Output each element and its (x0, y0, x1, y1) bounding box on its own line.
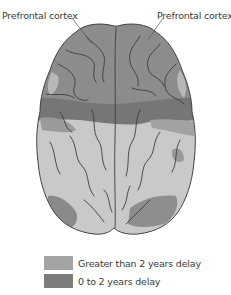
legend-item-greater-than-2-years: Greater than 2 years delay (44, 256, 201, 270)
legend-swatch-light (44, 256, 73, 270)
brain-diagram (0, 0, 231, 295)
legend-label: 0 to 2 years delay (78, 276, 160, 287)
legend-label: Greater than 2 years delay (78, 258, 201, 269)
legend-item-0-to-2-years: 0 to 2 years delay (44, 274, 160, 288)
legend-swatch-dark (44, 274, 73, 288)
brain-regions (30, 20, 205, 240)
